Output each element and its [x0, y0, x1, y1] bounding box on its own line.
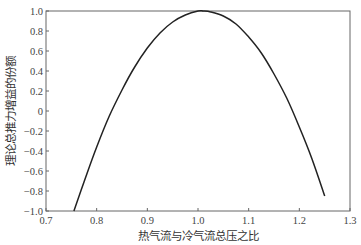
- y-tick-label: −0.8: [24, 186, 43, 197]
- y-axis: 1.00.80.60.40.20−0.2−0.4−0.6−0.8−1.0: [24, 6, 49, 217]
- x-tick-label: 0.7: [39, 215, 52, 226]
- x-tick-label: 0.8: [90, 215, 103, 226]
- y-tick-label: 0.2: [30, 86, 43, 97]
- data-line: [74, 11, 325, 211]
- y-tick-label: 1.0: [30, 6, 43, 17]
- line-chart: 0.70.80.91.01.11.21.3 1.00.80.60.40.20−0…: [0, 0, 361, 245]
- x-axis-label: 热气流与冷气流总压之比: [138, 229, 259, 243]
- y-tick-label: −0.6: [24, 166, 43, 177]
- x-tick-label: 1.3: [343, 215, 356, 226]
- y-axis-label: 理论总推力增益的份额: [4, 55, 18, 166]
- x-tick-label: 1.0: [191, 215, 204, 226]
- x-tick-label: 1.1: [242, 215, 255, 226]
- x-tick-label: 0.9: [141, 215, 154, 226]
- plot-border: [46, 11, 350, 211]
- y-tick-label: −1.0: [24, 206, 43, 217]
- y-tick-label: −0.2: [24, 126, 43, 137]
- y-tick-label: 0.8: [30, 26, 43, 37]
- y-tick-label: 0.4: [30, 66, 44, 77]
- plot-frame: [46, 11, 350, 211]
- y-tick-label: 0: [38, 106, 43, 117]
- y-tick-label: 0.6: [30, 46, 43, 57]
- y-tick-label: −0.4: [24, 146, 44, 157]
- x-tick-label: 1.2: [293, 215, 306, 226]
